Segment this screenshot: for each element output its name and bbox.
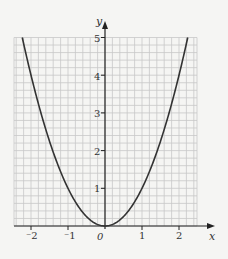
x-tick-label: 2: [176, 230, 182, 241]
x-tick-label: ⁻1: [64, 230, 76, 241]
x-axis-label: x: [209, 230, 216, 243]
y-tick-label: 1: [94, 183, 100, 194]
parabola-chart: y x 0 ⁻2 ⁻1 1 2 1 2 3 4 5: [0, 0, 228, 259]
y-axis-label: y: [95, 15, 103, 28]
y-axis-arrow-icon: [102, 21, 108, 29]
y-tick-label: 4: [94, 71, 100, 82]
x-tick-label: ⁻2: [26, 230, 38, 241]
y-tick-label: 2: [94, 146, 100, 157]
x-axis-arrow-icon: [207, 223, 215, 229]
y-tick-label: 3: [94, 108, 100, 119]
origin-label: 0: [97, 231, 104, 242]
x-tick-label: 1: [139, 230, 145, 241]
y-tick-label: 5: [94, 33, 100, 44]
